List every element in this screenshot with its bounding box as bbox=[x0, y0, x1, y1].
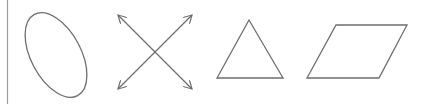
crossed-arrows-shape bbox=[118, 15, 192, 89]
parallelogram-shape bbox=[307, 25, 407, 78]
ellipse-shape bbox=[12, 3, 99, 104]
triangle-shape bbox=[217, 20, 283, 78]
shapes-figure bbox=[0, 0, 422, 104]
